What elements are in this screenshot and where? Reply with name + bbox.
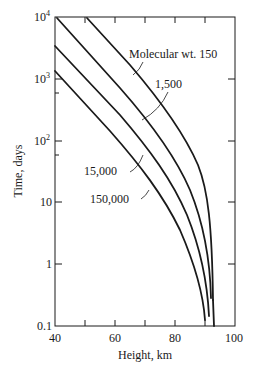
curves [55, 18, 214, 326]
annotation-mw-15000: 15,000 [84, 164, 117, 178]
x-label-60: 60 [109, 331, 121, 345]
annotation-mw-150000: 150,000 [90, 192, 129, 206]
x-tick-labels: 40 60 80 100 [49, 331, 243, 345]
x-label-80: 80 [169, 331, 181, 345]
plot-frame [55, 17, 235, 326]
y-tick-labels: 104 103 102 10 1 0.1 [34, 9, 52, 333]
y-label-1e3: 103 [34, 71, 50, 86]
chart: 104 103 102 10 1 0.1 40 60 80 100 Height… [0, 0, 254, 378]
x-label-100: 100 [225, 331, 243, 345]
annotation-mw-1500: 1,500 [155, 77, 182, 91]
y-ticks-right [228, 79, 235, 264]
y-label-1: 1 [46, 257, 52, 271]
curve-mw-150000 [55, 71, 205, 320]
y-label-1e2: 102 [34, 133, 50, 148]
leader-mw-150000 [141, 190, 149, 199]
curve-limit [213, 300, 214, 326]
y-label-1e4: 104 [34, 9, 50, 24]
x-ticks-bottom [85, 320, 205, 326]
leader-mw-150 [133, 62, 143, 75]
x-ticks-top [85, 17, 205, 23]
x-axis-title: Height, km [118, 348, 173, 362]
y-axis-title: Time, days [11, 144, 25, 197]
y-label-10: 10 [40, 195, 52, 209]
y-ticks-left [55, 79, 62, 264]
x-label-40: 40 [49, 331, 61, 345]
annotation-mw-150: Molecular wt. 150 [129, 47, 217, 61]
